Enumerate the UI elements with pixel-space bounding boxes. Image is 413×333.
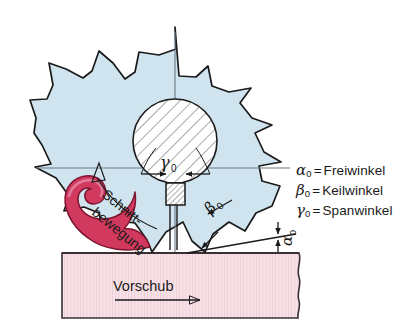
cutting-angles-diagram: γ 0 β 0 α 0 Schnitt- bewegung Vorschub α… (0, 0, 413, 333)
legend-row-keilwinkel: β0=Keilwinkel (296, 180, 413, 200)
legend-term-spanwinkel: Spanwinkel (322, 203, 392, 218)
feed-label: Vorschub (113, 278, 173, 294)
legend-equals-gamma: = (310, 203, 322, 218)
legend-row-freiwinkel: α0=Freiwinkel (296, 160, 413, 180)
legend-term-keilwinkel: Keilwinkel (322, 183, 383, 198)
clearance-angle-symbol: α (278, 236, 296, 246)
clearance-angle-subscript: 0 (288, 230, 298, 235)
workpiece (62, 253, 300, 318)
legend-symbol-alpha: α (296, 161, 306, 179)
rake-angle-subscript: 0 (171, 163, 177, 174)
legend-row-spanwinkel: γ0=Spanwinkel (296, 200, 413, 220)
rake-angle-symbol: γ (160, 153, 170, 172)
legend-equals-alpha: = (312, 163, 324, 178)
clearance-angle-label: α 0 (278, 230, 298, 246)
legend-symbol-beta: β (296, 181, 305, 199)
legend-subscript-alpha: 0 (306, 168, 311, 179)
angle-legend: α0=Freiwinkel β0=Keilwinkel γ0=Spanwinke… (296, 160, 413, 220)
legend-equals-beta: = (310, 183, 322, 198)
legend-term-freiwinkel: Freiwinkel (324, 163, 386, 178)
legend-symbol-gamma: γ (296, 201, 305, 219)
